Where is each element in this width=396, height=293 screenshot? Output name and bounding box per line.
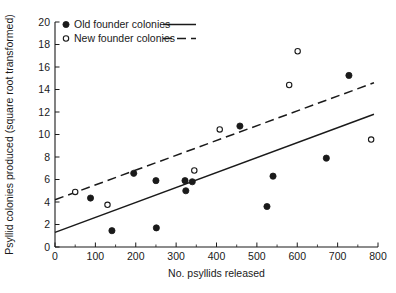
y-axis-tick-label: 2 [44,218,50,230]
trend-line-new [55,83,374,200]
legend-marker-old [63,21,69,27]
trend-line-old [55,114,374,232]
data-point [368,137,373,142]
x-axis-tick-label: 400 [208,250,226,262]
x-axis-tick-label: 100 [87,250,105,262]
data-point [270,173,276,179]
scatter-plot-figure: 0100200300400500600700800024681012141618… [0,0,396,293]
y-axis-tick-label: 8 [44,151,50,163]
data-point [183,188,189,194]
y-axis-tick-label: 12 [38,106,50,118]
chart-canvas: 0100200300400500600700800024681012141618… [0,0,396,293]
data-point [131,170,137,176]
legend-label-new: New founder colonies [74,32,175,44]
y-axis-tick-label: 0 [44,241,50,253]
x-axis-tick-label: 500 [248,250,266,262]
data-point [217,127,222,132]
data-point [105,202,110,207]
y-axis-title: Psyllid colonies produced (square root t… [3,14,15,254]
data-point [295,49,300,54]
legend-label-old: Old founder colonies [74,18,170,30]
data-point [346,72,352,78]
x-axis-tick-label: 600 [288,250,306,262]
data-point [182,178,188,184]
data-point [72,189,77,194]
data-point [286,82,291,87]
data-point [323,155,329,161]
y-axis-tick-label: 16 [38,61,50,73]
data-point [192,168,197,173]
y-axis-tick-label: 6 [44,173,50,185]
y-axis-tick-label: 10 [38,128,50,140]
data-point [87,195,93,201]
y-axis-tick-label: 20 [38,16,50,28]
y-axis-tick-label: 18 [38,38,50,50]
data-point [153,178,159,184]
data-point [237,123,243,129]
y-axis-tick-label: 4 [44,196,50,208]
data-point [153,225,159,231]
x-axis-tick-label: 800 [369,250,387,262]
x-axis-tick-label: 700 [329,250,347,262]
data-point [189,179,195,185]
data-point [264,203,270,209]
x-axis-tick-label: 0 [52,250,58,262]
y-axis-tick-label: 14 [38,83,50,95]
legend-marker-new [63,36,68,41]
x-axis-title: No. psyllids released [168,267,265,279]
data-point [109,228,115,234]
x-axis-tick-label: 300 [167,250,185,262]
x-axis-tick-label: 200 [127,250,145,262]
